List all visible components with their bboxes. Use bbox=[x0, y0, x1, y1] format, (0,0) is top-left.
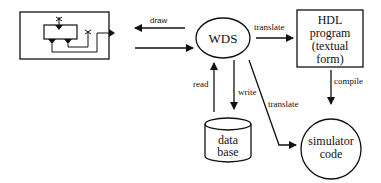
edge-translate-hdl: translate bbox=[254, 22, 293, 38]
edge-translate-sim: translate bbox=[249, 60, 299, 145]
edge-read: read bbox=[193, 63, 214, 112]
hdl-line-3: (textual bbox=[312, 39, 349, 53]
edge-label-translate-sim: translate bbox=[268, 99, 299, 109]
edge-label-write: write bbox=[238, 87, 257, 97]
edge-draw: draw bbox=[135, 16, 185, 28]
edge-label-compile: compile bbox=[334, 76, 363, 86]
schematic-box bbox=[20, 12, 115, 59]
simulator-line-1: simulator bbox=[308, 134, 353, 148]
wds-label: WDS bbox=[209, 31, 238, 46]
hdl-line-2: program bbox=[310, 26, 351, 40]
edge-label-draw: draw bbox=[150, 16, 168, 25]
node-database: data base bbox=[205, 118, 251, 162]
hdl-line-4: form) bbox=[316, 52, 343, 66]
edge-label-read: read bbox=[193, 79, 209, 89]
node-simulator-code: simulator code bbox=[301, 119, 361, 179]
diagram-canvas: draw WDS translate HDL program (textual … bbox=[0, 0, 381, 183]
edge-label-translate-hdl: translate bbox=[254, 22, 285, 32]
hdl-line-1: HDL bbox=[318, 13, 343, 27]
simulator-line-2: code bbox=[320, 147, 343, 161]
edge-compile: compile bbox=[331, 70, 363, 104]
node-wds: WDS bbox=[196, 18, 250, 58]
edge-write: write bbox=[234, 60, 257, 109]
node-hdl-program: HDL program (textual form) bbox=[297, 10, 363, 67]
database-line-2: base bbox=[217, 145, 238, 159]
